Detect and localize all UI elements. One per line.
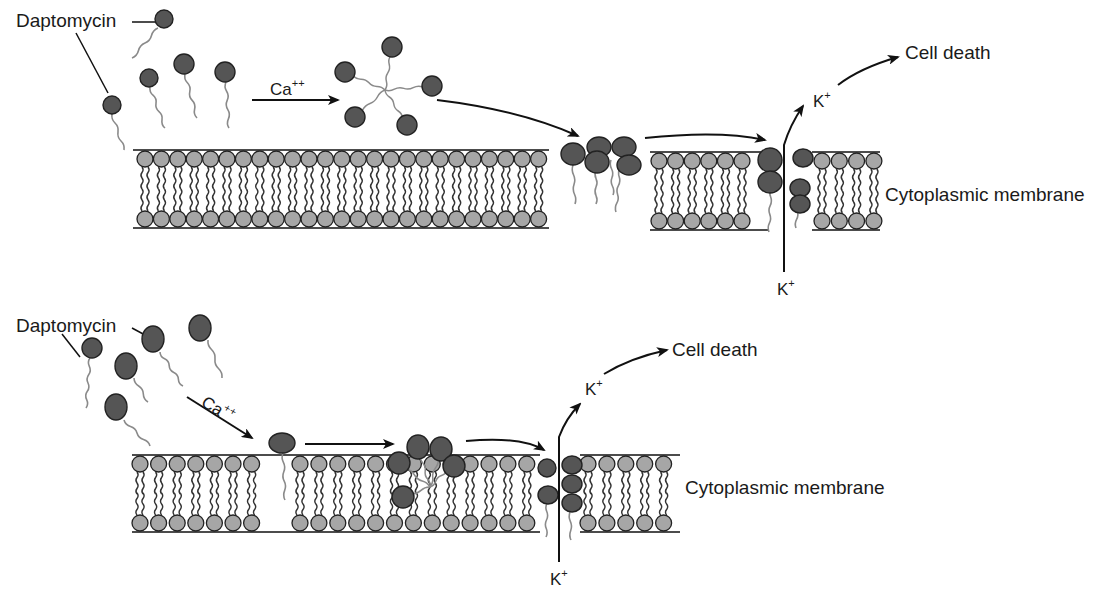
bottom-membrane-label: Cytoplasmic membrane [685, 478, 885, 497]
bottom-oligomer-cluster [388, 435, 465, 508]
top-potassium-outside-label: K+ [813, 91, 831, 110]
bottom-panel [62, 315, 680, 562]
top-label-pointer-line [76, 33, 108, 93]
potassium-symbol: K [550, 570, 561, 589]
top-cell-death-arrow [838, 57, 898, 85]
potassium-symbol: K [813, 92, 824, 111]
potassium-charge: + [596, 377, 602, 389]
top-pore [758, 148, 813, 232]
bottom-cell-death-arrow [604, 350, 667, 374]
bottom-daptomycin-label: Daptomycin [16, 316, 116, 335]
bottom-membrane-segment-3 [580, 455, 680, 532]
potassium-charge: + [561, 567, 567, 579]
top-membrane-label: Cytoplasmic membrane [885, 185, 1085, 204]
top-panel [76, 10, 898, 272]
top-cell-death-label: Cell death [905, 43, 991, 62]
calcium-symbol: Ca [270, 80, 292, 99]
potassium-charge: + [824, 89, 830, 101]
potassium-charge: + [788, 277, 794, 289]
top-free-daptomycin [103, 10, 235, 150]
bottom-cell-death-label: Cell death [672, 340, 758, 359]
bottom-inserted-monomer [269, 433, 295, 500]
calcium-charge: ++ [292, 77, 305, 89]
top-daptomycin-micelle [335, 37, 442, 135]
top-membrane-segment-2 [650, 152, 768, 230]
top-daptomycin-label: Daptomycin [16, 11, 116, 30]
top-inserted-cluster [561, 137, 641, 212]
bottom-membrane-segment-1 [132, 455, 282, 532]
bottom-label-pointer-line [62, 334, 80, 357]
daptomycin-diagram [0, 0, 1112, 595]
bottom-potassium-outside-label: K+ [585, 379, 603, 398]
top-insertion-arrow [437, 100, 578, 136]
potassium-symbol: K [585, 380, 596, 399]
top-potassium-inside-label: K+ [777, 279, 795, 298]
top-pore-arrow [645, 134, 765, 140]
top-calcium-label: Ca++ [270, 79, 305, 98]
bottom-pore-arrow [466, 440, 544, 450]
top-membrane-segment-1 [133, 150, 549, 228]
top-membrane-segment-3 [812, 152, 882, 230]
bottom-potassium-inside-label: K+ [550, 569, 568, 588]
potassium-symbol: K [777, 280, 788, 299]
